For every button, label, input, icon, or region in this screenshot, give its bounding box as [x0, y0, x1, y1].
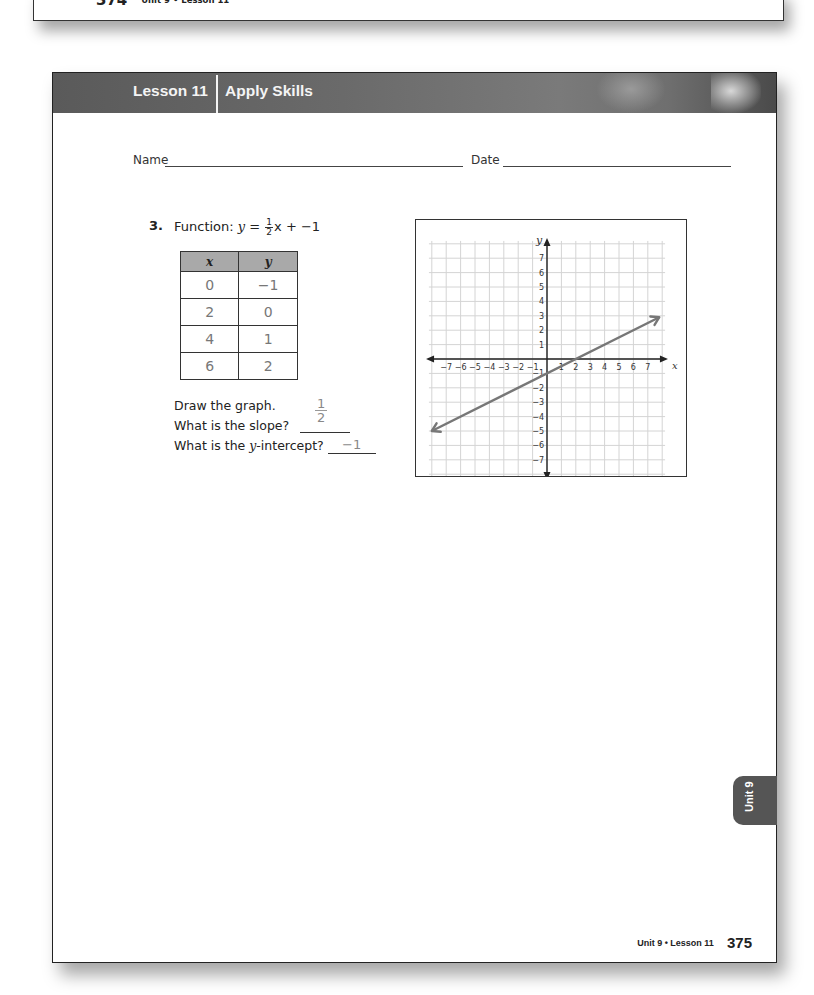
y-tick-label: 3 [539, 312, 544, 321]
function-prefix: Function: [174, 219, 238, 234]
header-photo-figure [711, 73, 761, 113]
yint-prompt-end: -intercept? [256, 438, 323, 453]
x-tick-label: 5 [616, 363, 621, 372]
header-photo [596, 73, 666, 113]
table-cell[interactable]: 4 [181, 326, 239, 353]
x-axis-arrow-left-icon [426, 356, 434, 363]
plotted-line [432, 317, 660, 431]
date-field[interactable] [503, 166, 731, 167]
table-cell[interactable]: 0 [181, 272, 239, 299]
table-row: 0−1 [181, 272, 298, 299]
y-tick-label: 2 [539, 326, 544, 335]
unit-tab-label: Unit 9 [743, 781, 755, 812]
table-row: 62 [181, 353, 298, 380]
x-tick-label: 6 [631, 363, 636, 372]
y-axis-label: y [535, 234, 543, 247]
date-label: Date [471, 153, 500, 167]
y-tick-label: 7 [539, 254, 544, 263]
y-tick-label: 6 [539, 269, 544, 278]
previous-page-edge: 374 Unit 9 • Lesson 11 [33, 0, 784, 21]
table-header-x: x [181, 252, 239, 272]
lesson-number: Lesson 11 [133, 82, 208, 100]
y-tick-label: −3 [532, 398, 544, 407]
x-tick-label: 7 [645, 363, 650, 372]
draw-prompt: Draw the graph. [174, 398, 276, 413]
x-tick-label: −6 [455, 363, 467, 372]
x-tick-label: 2 [573, 363, 578, 372]
y-tick-label: −5 [532, 427, 544, 436]
y-tick-label: 1 [539, 341, 544, 350]
y-axis-arrow-up-icon [544, 238, 551, 246]
previous-page-footer: 374 Unit 9 • Lesson 11 [96, 0, 229, 9]
unit-tab: Unit 9 [733, 776, 777, 825]
y-tick-label: −4 [532, 413, 544, 422]
function-coefficient: 12 [265, 218, 273, 237]
worksheet-page: Lesson 11 Apply Skills Name Date 3. Func… [52, 72, 777, 963]
question-number: 3. [149, 218, 163, 233]
slope-answer: 1 2 [315, 397, 327, 424]
slope-denominator: 2 [317, 410, 325, 425]
y-intercept-prompt: What is the y-intercept? [174, 438, 324, 453]
y-tick-label: 5 [539, 283, 544, 292]
table-cell[interactable]: 2 [181, 299, 239, 326]
slope-numerator: 1 [315, 397, 327, 411]
y-tick-label: −6 [532, 441, 544, 450]
y-axis-arrow-down-icon [544, 472, 551, 476]
coordinate-graph[interactable]: −7−6−5−4−3−2−112345677654321−1−2−3−4−5−6… [415, 219, 687, 477]
lesson-title: Apply Skills [225, 82, 313, 100]
table-cell[interactable]: 2 [239, 353, 298, 380]
y-tick-label: 4 [539, 297, 544, 306]
previous-page-label: Unit 9 • Lesson 11 [141, 0, 229, 5]
table-cell[interactable]: 6 [181, 353, 239, 380]
slope-prompt: What is the slope? [174, 418, 289, 433]
y-intercept-answer-field[interactable] [328, 453, 376, 454]
name-label: Name [133, 153, 168, 167]
x-tick-label: 4 [602, 363, 607, 372]
name-field[interactable] [165, 166, 463, 167]
table-cell[interactable]: −1 [239, 272, 298, 299]
table-row: 41 [181, 326, 298, 353]
x-tick-label: −5 [469, 363, 481, 372]
table-cell[interactable]: 1 [239, 326, 298, 353]
y-intercept-answer: −1 [342, 437, 361, 452]
previous-page-number: 374 [96, 0, 127, 9]
table-cell[interactable]: 0 [239, 299, 298, 326]
function-equation: Function: y = 12x + −1 [174, 218, 320, 237]
footer-label: Unit 9 • Lesson 11 [637, 938, 714, 948]
table-row: 20 [181, 299, 298, 326]
yint-prompt-start: What is the [174, 438, 249, 453]
x-tick-label: −2 [512, 363, 524, 372]
graph-canvas[interactable]: −7−6−5−4−3−2−112345677654321−1−2−3−4−5−6… [416, 220, 686, 476]
x-tick-label: −7 [440, 363, 452, 372]
page-footer: Unit 9 • Lesson 11 375 [637, 933, 752, 952]
slope-answer-field[interactable] [300, 432, 350, 433]
function-suffix: x + −1 [274, 219, 320, 234]
x-axis-label: x [672, 360, 678, 371]
x-tick-label: 3 [588, 363, 593, 372]
page-number: 375 [727, 934, 752, 951]
header-divider [216, 75, 218, 113]
coefficient-denominator: 2 [265, 228, 273, 237]
xy-table: x y 0−1 20 41 62 [180, 251, 298, 380]
x-tick-label: −4 [484, 363, 496, 372]
x-axis-arrow-right-icon [660, 356, 668, 363]
table-header-y: y [239, 252, 298, 272]
x-tick-label: −3 [498, 363, 510, 372]
header-band: Lesson 11 Apply Skills [53, 73, 776, 113]
y-tick-label: −2 [532, 384, 544, 393]
y-tick-label: −7 [532, 456, 544, 465]
function-equals: = [245, 219, 264, 234]
